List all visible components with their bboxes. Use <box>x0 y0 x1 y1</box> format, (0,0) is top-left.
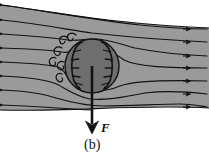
airflow-diagram-svg <box>0 0 209 160</box>
figure-container: F (b) <box>0 0 209 160</box>
force-label: F <box>101 121 110 134</box>
panel-caption: (b) <box>84 138 100 152</box>
